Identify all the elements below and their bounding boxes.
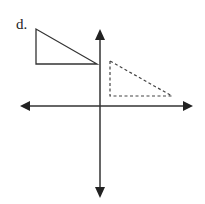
arrow-down-icon [95, 187, 105, 198]
coordinate-plane [0, 0, 205, 204]
arrow-right-icon [183, 101, 193, 111]
image-triangle [110, 61, 172, 96]
arrow-left-icon [20, 101, 30, 111]
arrow-up-icon [95, 29, 105, 40]
original-triangle [36, 29, 97, 64]
x-axis [20, 101, 193, 111]
y-axis [95, 29, 105, 198]
